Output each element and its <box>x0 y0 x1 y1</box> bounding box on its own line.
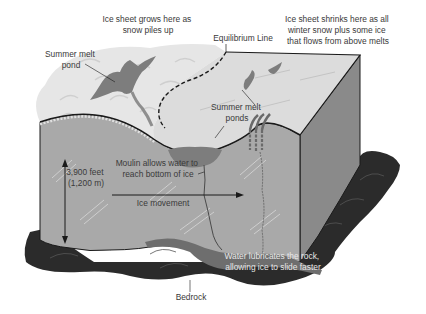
ice-sheet-diagram: Ice sheet grows here as snow piles up Ic… <box>0 0 426 314</box>
water-lubrication-label: Water lubricates the rock, allowing ice … <box>225 251 322 272</box>
bedrock-label: Bedrock <box>176 292 208 302</box>
moulin-label: Moulin allows water to reach bottom of i… <box>116 158 201 179</box>
accumulation-label: Ice sheet grows here as snow piles up <box>102 14 193 35</box>
ablation-label: Ice sheet shrinks here as all winter sno… <box>285 14 391 46</box>
equilibrium-line-label: Equilibrium Line <box>213 33 273 43</box>
ice-movement-label: Ice movement <box>137 198 190 208</box>
thickness-label: 3,900 feet (1,200 m) <box>66 167 106 188</box>
